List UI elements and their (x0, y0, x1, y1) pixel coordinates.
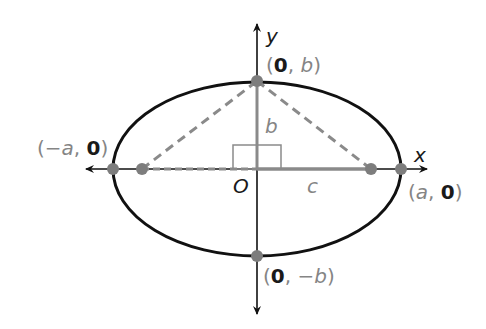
point-left-focus (136, 163, 148, 175)
point-right-focus (365, 163, 377, 175)
origin-label: O (233, 174, 249, 198)
label-left-vertex: (−a, 0) (37, 136, 108, 160)
y-axis-label: y (265, 24, 279, 48)
dashed-left-to-covertex (142, 81, 257, 169)
x-axis-label: x (413, 143, 426, 167)
point-bottom-covertex (251, 250, 263, 262)
ellipse-diagram: y x O b c (0, b) (0, −b) (−a, 0) (a, 0) (0, 0, 486, 329)
label-bottom-covertex: (0, −b) (263, 264, 335, 288)
point-top-covertex (251, 75, 263, 87)
segment-c-label: c (307, 174, 318, 198)
point-right-vertex (395, 163, 407, 175)
point-left-vertex (107, 163, 119, 175)
label-top-covertex: (0, b) (266, 53, 321, 77)
label-right-vertex: (a, 0) (408, 180, 463, 204)
segment-b-label: b (265, 114, 278, 138)
